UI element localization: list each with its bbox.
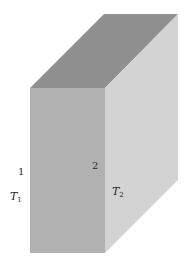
temperature-t2-label: T2 (112, 186, 124, 199)
temperature-t1-label: T1 (10, 191, 22, 204)
slab-diagram (0, 0, 188, 265)
face-1-label: 1 (18, 167, 24, 177)
t2-subscript: 2 (119, 191, 123, 199)
face-2-label: 2 (92, 161, 98, 171)
t1-subscript: 1 (17, 196, 21, 204)
